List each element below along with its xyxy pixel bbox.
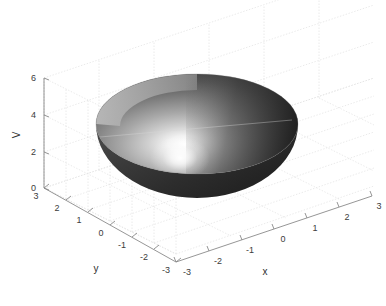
x-tick-labels: -3 -2 -1 0 1 2 3 <box>183 201 382 277</box>
y-tick-label: 2 <box>54 203 59 213</box>
z-tick-label: 6 <box>31 73 36 83</box>
x-tick-label: 3 <box>376 201 381 211</box>
y-tick-label: 1 <box>76 215 81 225</box>
z-tick-labels: 6 4 2 0 <box>31 73 36 193</box>
surface-plot-svg: 6 4 2 0 3 2 1 0 -1 -2 -3 -3 -2 -1 0 1 2 … <box>0 0 386 306</box>
y-tick-label: -2 <box>140 252 148 262</box>
x-tick-label: -3 <box>183 267 191 277</box>
z-axis-title: V <box>11 131 22 138</box>
y-tick-label: 3 <box>33 191 38 201</box>
surface-paraboloid <box>96 70 304 198</box>
x-axis-title: x <box>263 266 268 277</box>
x-tick-label: 2 <box>344 212 349 222</box>
y-tick-marks <box>44 184 181 262</box>
y-tick-label: 0 <box>98 228 103 238</box>
x-tick-marks <box>174 191 372 262</box>
y-tick-label: -3 <box>162 265 170 275</box>
z-tick-label: 2 <box>31 147 36 157</box>
z-tick-label: 4 <box>31 110 36 120</box>
z-tick-marks <box>44 78 49 190</box>
x-tick-label: 1 <box>312 223 317 233</box>
x-tick-label: -2 <box>214 256 222 266</box>
y-tick-label: -1 <box>118 240 126 250</box>
y-tick-labels: 3 2 1 0 -1 -2 -3 <box>33 191 170 275</box>
figure-container: 6 4 2 0 3 2 1 0 -1 -2 -3 -3 -2 -1 0 1 2 … <box>0 0 386 306</box>
x-tick-label: 0 <box>280 234 285 244</box>
x-tick-label: -1 <box>246 245 254 255</box>
y-axis-title: y <box>94 263 99 274</box>
